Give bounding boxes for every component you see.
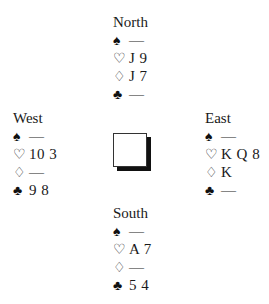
west-label: West	[13, 109, 57, 127]
north-clubs: ♣—	[113, 85, 148, 103]
west-diamonds: ♢—	[13, 163, 57, 181]
west-clubs: ♣9 8	[13, 181, 57, 199]
south-clubs: ♣5 4	[113, 276, 152, 294]
diamond-icon: ♢	[13, 164, 29, 182]
club-icon: ♣	[13, 182, 29, 200]
east-spades: ♠—	[205, 127, 260, 145]
bridge-table	[113, 133, 147, 167]
north-diamonds: ♢J 7	[113, 67, 148, 85]
west-hearts: ♡10 3	[13, 145, 57, 163]
east-label: East	[205, 109, 260, 127]
west-spades: ♠—	[13, 127, 57, 145]
spade-icon: ♠	[205, 128, 221, 146]
south-label: South	[113, 204, 152, 222]
heart-icon: ♡	[205, 146, 221, 164]
east-clubs: ♣—	[205, 181, 260, 199]
north-hearts: ♡J 9	[113, 49, 148, 67]
west-hand: West ♠— ♡10 3 ♢— ♣9 8	[13, 109, 57, 199]
south-hearts: ♡A 7	[113, 240, 152, 258]
spade-icon: ♠	[113, 223, 129, 241]
north-hand: North ♠— ♡J 9 ♢J 7 ♣—	[113, 13, 148, 103]
diamond-icon: ♢	[113, 259, 129, 277]
east-hand: East ♠— ♡K Q 8 ♢K ♣—	[205, 109, 260, 199]
diamond-icon: ♢	[205, 164, 221, 182]
diamond-icon: ♢	[113, 68, 129, 86]
north-spades: ♠—	[113, 31, 148, 49]
club-icon: ♣	[113, 277, 129, 295]
spade-icon: ♠	[13, 128, 29, 146]
club-icon: ♣	[113, 86, 129, 104]
club-icon: ♣	[205, 182, 221, 200]
heart-icon: ♡	[113, 50, 129, 68]
north-label: North	[113, 13, 148, 31]
south-hand: South ♠— ♡A 7 ♢— ♣5 4	[113, 204, 152, 294]
east-hearts: ♡K Q 8	[205, 145, 260, 163]
heart-icon: ♡	[113, 241, 129, 259]
east-diamonds: ♢K	[205, 163, 260, 181]
south-diamonds: ♢—	[113, 258, 152, 276]
spade-icon: ♠	[113, 32, 129, 50]
south-spades: ♠—	[113, 222, 152, 240]
heart-icon: ♡	[13, 146, 29, 164]
